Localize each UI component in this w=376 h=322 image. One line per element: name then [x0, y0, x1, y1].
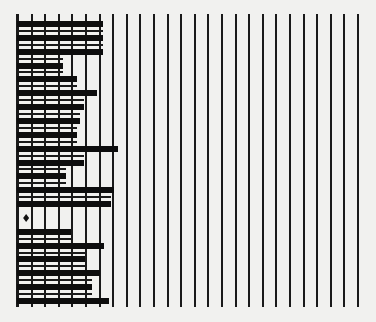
- row-separator: [17, 252, 85, 254]
- bar: [17, 35, 103, 41]
- grid-line: [221, 14, 223, 307]
- grid-line: [180, 14, 182, 307]
- grid-line: [207, 14, 209, 307]
- row-separator: [17, 99, 84, 101]
- grid-line: [112, 14, 114, 307]
- bar: [17, 256, 85, 262]
- row-separator: [17, 141, 77, 143]
- bar: [17, 298, 109, 304]
- bar: [17, 270, 100, 276]
- row-separator: [17, 30, 103, 32]
- grid-line: [167, 14, 169, 307]
- bar-chart: [0, 0, 376, 322]
- grid-line: [99, 14, 101, 307]
- grid-line: [316, 14, 318, 307]
- grid-line: [139, 14, 141, 307]
- bar: [17, 229, 71, 235]
- grid-line: [85, 14, 87, 307]
- grid-line: [126, 14, 128, 307]
- row-separator: [17, 44, 103, 46]
- row-separator: [17, 279, 92, 281]
- bar: [17, 284, 92, 290]
- bar: [17, 76, 77, 82]
- row-separator: [17, 58, 63, 60]
- grid-line: [262, 14, 264, 307]
- row-separator: [17, 265, 85, 267]
- grid-line: [289, 14, 291, 307]
- grid-line: [330, 14, 332, 307]
- grid-line: [235, 14, 237, 307]
- row-separator: [17, 168, 66, 170]
- bar: [17, 243, 104, 249]
- bar: [17, 21, 103, 27]
- grid-line: [343, 14, 345, 307]
- bar: [17, 49, 103, 55]
- grid-line: [194, 14, 196, 307]
- bar: [17, 104, 84, 110]
- grid-line: [248, 14, 250, 307]
- row-separator: [17, 196, 111, 198]
- diamond-marker-icon: [23, 214, 29, 222]
- grid-line: [303, 14, 305, 307]
- bar: [17, 160, 84, 166]
- row-separator: [17, 127, 77, 129]
- row-separator: [17, 293, 92, 295]
- row-separator: [17, 155, 84, 157]
- row-separator: [17, 238, 71, 240]
- bar: [17, 173, 66, 179]
- bar: [17, 146, 118, 152]
- row-separator: [17, 85, 77, 87]
- bar: [17, 90, 97, 96]
- bar: [17, 63, 63, 69]
- grid-line: [153, 14, 155, 307]
- grid-line: [275, 14, 277, 307]
- grid-line: [357, 14, 359, 307]
- bar: [17, 187, 114, 193]
- row-separator: [17, 113, 80, 115]
- bar: [17, 132, 77, 138]
- row-separator: [17, 71, 63, 73]
- bar: [17, 201, 111, 207]
- row-separator: [17, 182, 66, 184]
- bar: [17, 118, 80, 124]
